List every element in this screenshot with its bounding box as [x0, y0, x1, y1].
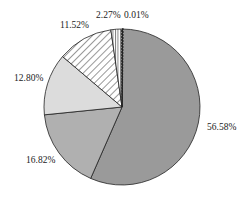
- slice-label-16: 16.82%: [26, 155, 55, 165]
- slice-label-12: 12.80%: [14, 73, 43, 83]
- slice-label-2: 2.27%: [96, 10, 121, 20]
- pie-slice-5: [122, 29, 123, 107]
- pie-chart: [0, 0, 251, 199]
- slice-label-56: 56.58%: [207, 122, 236, 132]
- slice-label-0: 0.01%: [124, 10, 149, 20]
- slice-label-11: 11.52%: [60, 20, 89, 30]
